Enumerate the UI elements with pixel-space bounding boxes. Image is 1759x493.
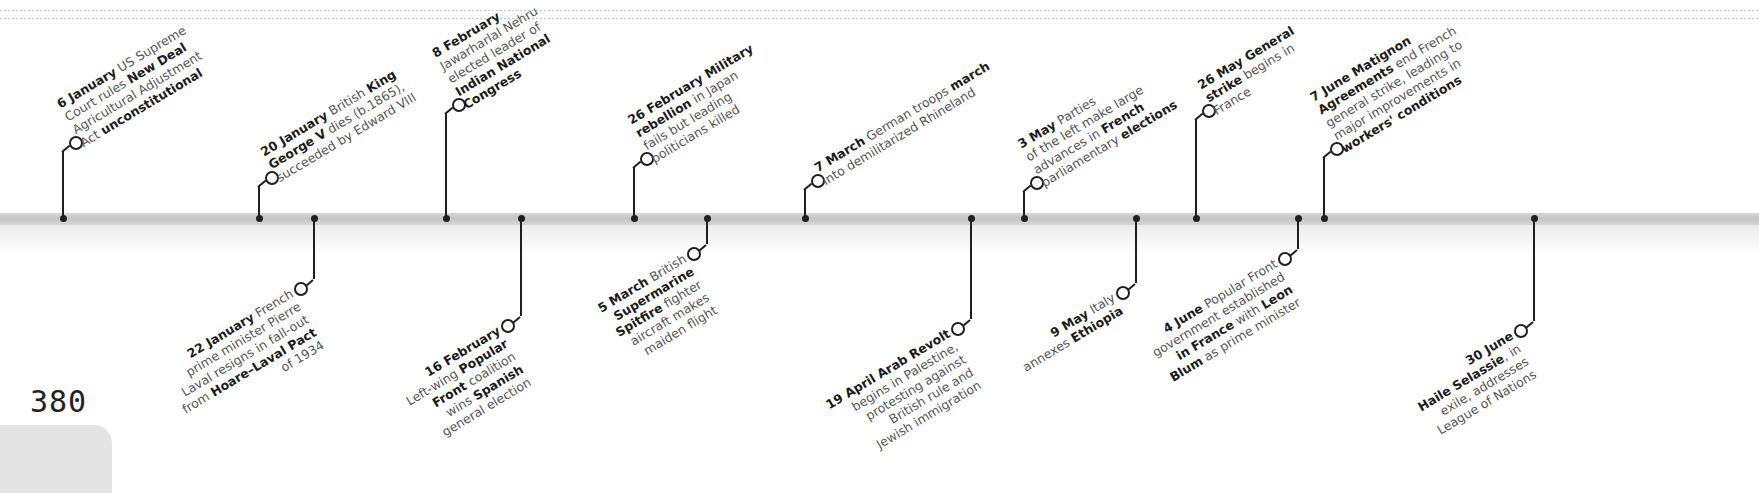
event-connector-line (804, 189, 806, 219)
page-number: 380 (30, 384, 87, 419)
event-connector-line (1135, 219, 1137, 283)
page-tab (0, 425, 112, 493)
event-connector-line (1195, 119, 1197, 219)
event-connector-line (258, 186, 260, 219)
event-connector-line (1323, 157, 1325, 219)
event-connector-line (633, 167, 635, 219)
event-label: 6 January US SupremeCourt rules New Deal… (54, 22, 212, 150)
event-marker-circle-icon (1278, 252, 1292, 266)
event-label: 22 January Frenchprime minister PierreLa… (99, 286, 326, 464)
event-label: 26 February Militaryrebellion in Japanfa… (625, 41, 779, 166)
event-label: 5 March BritishSupermarineSpitfire fight… (492, 251, 719, 429)
event-marker-circle-icon (294, 282, 308, 296)
event-label-line: 7 March German troops march (812, 58, 993, 175)
event-label: 16 FebruaryLeft-wing PopularFront coalit… (306, 323, 533, 493)
event-connector-line (62, 151, 64, 219)
event-label: 30 JuneHaile Selassie, inexile, addresse… (1319, 328, 1538, 493)
event-connector-line (1023, 191, 1025, 219)
event-connector-line (970, 219, 972, 319)
event-marker-circle-icon (687, 247, 701, 261)
top-rule-1 (0, 10, 1759, 11)
event-label: 7 March German troops marchinto demilita… (812, 58, 1000, 188)
event-label-line: into demilitarized Rhineland (819, 71, 1000, 188)
top-rule-2 (0, 18, 1759, 19)
event-connector-line (1297, 219, 1299, 249)
event-connector-line (706, 219, 708, 244)
event-connector-line (1533, 219, 1535, 321)
event-connector-line (445, 113, 447, 219)
event-label-line: George V dies (b.1865), (266, 77, 411, 173)
event-connector-line (520, 219, 522, 316)
event-marker-circle-icon (501, 319, 515, 333)
event-label: 20 January British KingGeorge V dies (b.… (258, 64, 419, 185)
event-label-text: into demilitarized Rhineland (819, 84, 978, 188)
event-label: 4 June Popular Frontgovernment establish… (1083, 256, 1302, 421)
event-marker-circle-icon (1514, 324, 1528, 338)
event-marker-circle-icon (951, 322, 965, 336)
event-label: 8 FebruaryJawarharlal Nehruelected leade… (429, 0, 563, 112)
event-label: 3 May Partiesof the left make largeadvan… (1015, 58, 1180, 190)
event-marker-circle-icon (1116, 286, 1130, 300)
event-label: 7 June MatignonAgreements end Frenchgene… (1307, 10, 1482, 156)
event-connector-line (313, 219, 315, 279)
event-label: 26 May Generalstrike begins inFrance (1195, 23, 1312, 118)
timeline-band (0, 213, 1759, 225)
